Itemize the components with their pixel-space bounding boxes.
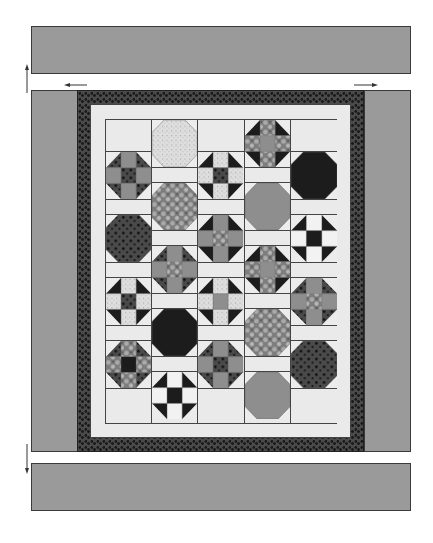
shoofly-block bbox=[106, 341, 151, 388]
sashing-strip bbox=[245, 356, 290, 372]
snowball-octagon-block bbox=[291, 341, 337, 388]
sashing-strip bbox=[198, 325, 243, 341]
snowball-octagon-block bbox=[106, 215, 151, 262]
shoofly-block bbox=[106, 278, 151, 325]
shoofly-block bbox=[198, 215, 243, 262]
shoofly-block bbox=[198, 278, 243, 325]
bottom-border-strip bbox=[31, 463, 411, 511]
sashing-strip bbox=[245, 167, 290, 183]
shoofly-block bbox=[245, 246, 290, 293]
shoofly-block bbox=[152, 246, 197, 293]
shoofly-block bbox=[245, 120, 290, 167]
snowball-octagon-block bbox=[245, 372, 290, 419]
quilt-center-grid bbox=[105, 119, 337, 424]
shoofly-block bbox=[291, 278, 337, 325]
spacer-top bbox=[106, 120, 151, 152]
snowball-octagon-block bbox=[245, 309, 290, 356]
arrow-up-icon bbox=[24, 64, 30, 94]
arrow-down-icon bbox=[24, 444, 30, 474]
sashing-strip bbox=[152, 167, 197, 183]
right-border-strip bbox=[364, 90, 411, 452]
sashing-strip bbox=[106, 262, 151, 278]
sashing-strip bbox=[106, 199, 151, 215]
spacer-top bbox=[198, 120, 243, 152]
sashing-strip bbox=[198, 199, 243, 215]
spacer-bottom bbox=[291, 388, 337, 423]
spacer-bottom bbox=[198, 388, 243, 423]
snowball-octagon-block bbox=[152, 309, 197, 356]
sashing-strip bbox=[245, 230, 290, 246]
quilt-column-1 bbox=[106, 120, 152, 423]
quilt-column-5 bbox=[291, 120, 337, 423]
left-border-strip bbox=[31, 90, 78, 452]
sashing-strip bbox=[245, 293, 290, 309]
shoofly-block bbox=[152, 372, 197, 419]
spacer-top bbox=[291, 120, 337, 152]
shoofly-block bbox=[198, 341, 243, 388]
quilt-column-2 bbox=[152, 120, 198, 423]
sashing-strip bbox=[291, 325, 337, 341]
sashing-strip bbox=[291, 199, 337, 215]
sashing-strip bbox=[198, 262, 243, 278]
quilt-column-4 bbox=[245, 120, 291, 423]
sashing-strip bbox=[106, 325, 151, 341]
sashing-strip bbox=[291, 262, 337, 278]
snowball-octagon-block bbox=[152, 183, 197, 230]
snowball-octagon-block bbox=[245, 183, 290, 230]
spacer-bottom bbox=[106, 388, 151, 423]
shoofly-block bbox=[106, 152, 151, 199]
top-border-strip bbox=[31, 26, 411, 74]
sashing-strip bbox=[152, 356, 197, 372]
shoofly-block bbox=[198, 152, 243, 199]
sashing-strip bbox=[152, 293, 197, 309]
snowball-octagon-block bbox=[291, 152, 337, 199]
shoofly-block bbox=[291, 215, 337, 262]
arrow-right-icon bbox=[354, 82, 378, 88]
arrow-left-icon bbox=[64, 82, 88, 88]
sashing-strip bbox=[152, 230, 197, 246]
quilt-column-3 bbox=[198, 120, 244, 423]
snowball-octagon-block bbox=[152, 120, 197, 167]
